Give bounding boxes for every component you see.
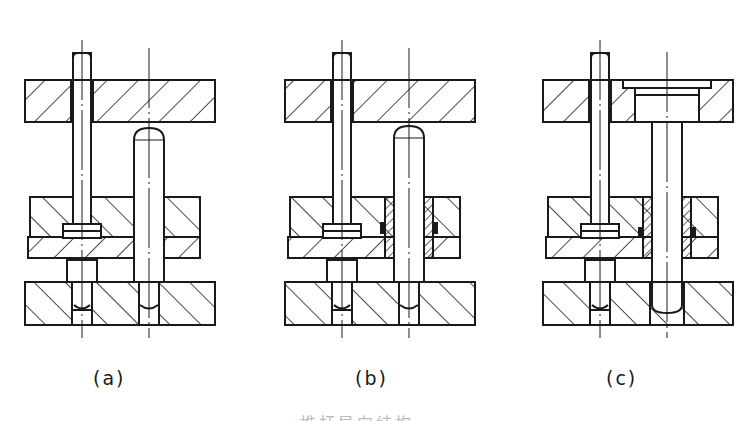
bushing-flange-left [639, 228, 643, 236]
bushing-flange-right [691, 228, 695, 236]
subfigure-b [285, 40, 475, 338]
ejector-retainer-plate [30, 197, 200, 237]
ejector-plate [546, 237, 718, 258]
top-clamp-plate [25, 80, 215, 122]
ejector-plate [28, 237, 200, 258]
guide-bushing-left [385, 197, 394, 258]
top-clamp-plate [285, 80, 475, 122]
subfigure-label-c: (c) [606, 367, 637, 389]
ejector-plate [288, 237, 460, 258]
subfigure-label-b: (b) [355, 367, 388, 389]
subfigure-c [543, 40, 733, 338]
diagram-canvas [0, 0, 754, 421]
bushing-flange-left [381, 223, 385, 233]
bottom-clamp-plate [285, 282, 475, 325]
guide-bushing-left [643, 197, 652, 258]
subfigure-label-a: (a) [93, 367, 125, 389]
bottom-clamp-plate [543, 282, 733, 325]
figure-caption: 推杆导向结构 [300, 411, 490, 421]
bushing-flange-right [433, 223, 437, 233]
subfigure-a [25, 40, 215, 338]
guide-bushing-right [424, 197, 433, 258]
bottom-clamp-plate [25, 282, 215, 325]
guide-bushing-right [682, 197, 691, 258]
